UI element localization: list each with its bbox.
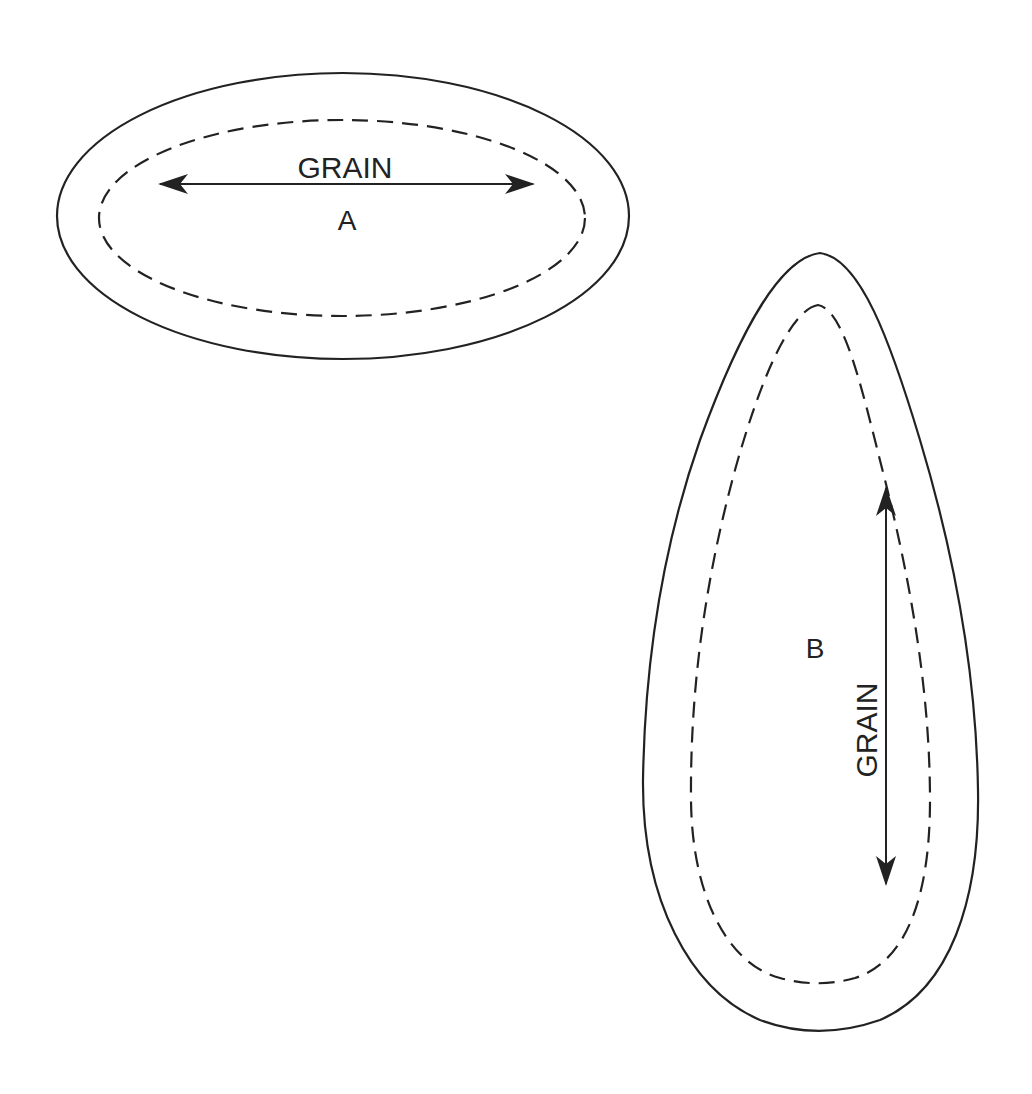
- piece-a-grain-label: GRAIN: [297, 151, 392, 184]
- piece-a-label: A: [338, 205, 357, 236]
- piece-b-grain-label: GRAIN: [850, 682, 883, 777]
- piece-b-label: B: [806, 633, 825, 664]
- pattern-piece-b: B GRAIN: [643, 253, 978, 1031]
- pattern-diagram: GRAIN A B GRAIN: [0, 0, 1032, 1094]
- pattern-piece-a: GRAIN A: [57, 73, 629, 359]
